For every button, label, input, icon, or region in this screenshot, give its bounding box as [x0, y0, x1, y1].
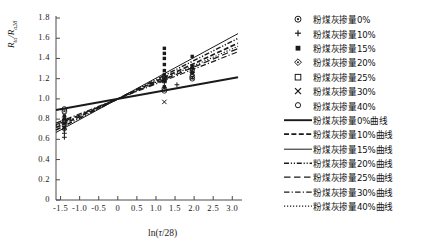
- dotted-line-icon: [283, 199, 313, 213]
- chart-figure: Rta/Ra28 ln(τ/28) 00.20.40.60.81.01.21.4…: [0, 0, 421, 248]
- x-axis-tick-label: 3.0: [218, 203, 246, 213]
- legend-item[interactable]: 粉煤灰掺量15%: [283, 41, 421, 55]
- legend-item[interactable]: 粉煤灰掺量20%曲线: [283, 156, 421, 170]
- data-point-filled-square: [163, 47, 166, 50]
- y-axis-tick-label: 0.4: [26, 154, 50, 164]
- fit-line: [56, 38, 238, 130]
- y-axis-tick-label: 1.0: [26, 93, 50, 103]
- y-axis-tick-label: 0.8: [26, 113, 50, 123]
- data-point-filled-square: [163, 85, 166, 88]
- dash-dot-line-icon: [283, 185, 313, 199]
- legend-item[interactable]: 粉煤灰掺量15%曲线: [283, 142, 421, 156]
- filled-square-marker-icon: [283, 41, 313, 55]
- legend-item-label: 粉煤灰掺量25%曲线: [313, 171, 393, 183]
- data-point-plus: [175, 82, 180, 87]
- fit-line: [56, 43, 238, 127]
- dash-dot-dot-line-icon: [283, 156, 313, 170]
- fit-line: [56, 77, 238, 110]
- legend-item[interactable]: 粉煤灰掺量25%: [283, 70, 421, 84]
- x-axis-title: ln(τ/28): [148, 228, 177, 238]
- data-point-filled-square: [163, 52, 166, 55]
- legend-item[interactable]: 粉煤灰掺量10%: [283, 26, 421, 40]
- legend-item[interactable]: 粉煤灰掺量20%: [283, 55, 421, 69]
- data-point-filled-square: [163, 69, 166, 72]
- plus-marker-icon: [283, 26, 313, 40]
- data-point-filled-square: [163, 63, 166, 66]
- legend-item[interactable]: 粉煤灰掺量25%曲线: [283, 170, 421, 184]
- legend-item-label: 粉煤灰掺量20%曲线: [313, 157, 393, 169]
- legend-item-label: 粉煤灰掺量30%: [313, 85, 376, 97]
- legend-item-label: 粉煤灰掺量0%曲线: [313, 114, 388, 126]
- small-circle-marker-icon: [283, 98, 313, 112]
- y-axis-tick-label: 1.6: [26, 32, 50, 42]
- data-point-filled-square: [191, 55, 194, 58]
- y-axis-tick-label: 1.4: [26, 52, 50, 62]
- x-axis-title-text: ln(τ/28): [148, 228, 177, 238]
- diamond-marker-icon: [283, 55, 313, 69]
- cross-marker-icon: [283, 84, 313, 98]
- legend-item-label: 粉煤灰掺量30%曲线: [313, 186, 393, 198]
- legend-item-label: 粉煤灰掺量40%曲线: [313, 200, 393, 212]
- legend-item[interactable]: 粉煤灰掺量40%: [283, 98, 421, 112]
- legend-item[interactable]: 粉煤灰掺量0%: [283, 12, 421, 26]
- data-point-filled-square: [163, 57, 166, 60]
- open-square-marker-icon: [283, 70, 313, 84]
- legend-item-label: 粉煤灰掺量25%: [313, 71, 376, 83]
- long-dash-line-icon: [283, 170, 313, 184]
- legend-item-label: 粉煤灰掺量0%: [313, 13, 370, 25]
- legend-item-label: 粉煤灰掺量20%: [313, 56, 376, 68]
- circle-dot-marker-icon: [283, 12, 313, 26]
- legend-item[interactable]: 粉煤灰掺量0%曲线: [283, 113, 421, 127]
- legend-item[interactable]: 粉煤灰掺量30%曲线: [283, 185, 421, 199]
- y-axis-tick-label: 1.8: [26, 12, 50, 22]
- dashed-line-icon: [283, 127, 313, 141]
- solid-thin-line-icon: [283, 142, 313, 156]
- chart-legend: 粉煤灰掺量0%粉煤灰掺量10%粉煤灰掺量15%粉煤灰掺量20%粉煤灰掺量25%粉…: [283, 12, 421, 213]
- legend-item-label: 粉煤灰掺量15%: [313, 42, 376, 54]
- legend-item[interactable]: 粉煤灰掺量10%曲线: [283, 127, 421, 141]
- legend-item-label: 粉煤灰掺量10%: [313, 28, 376, 40]
- legend-item-label: 粉煤灰掺量40%: [313, 100, 376, 112]
- y-axis-tick-label: 0.6: [26, 133, 50, 143]
- legend-item[interactable]: 粉煤灰掺量30%: [283, 84, 421, 98]
- y-axis-tick-label: 0.2: [26, 174, 50, 184]
- legend-item-label: 粉煤灰掺量10%曲线: [313, 128, 393, 140]
- y-axis-title: Rta/Ra28: [6, 32, 18, 48]
- legend-item[interactable]: 粉煤灰掺量40%曲线: [283, 199, 421, 213]
- data-series: [62, 73, 194, 131]
- fit-line: [56, 52, 238, 123]
- y-axis-title-text: Rta/Ra28: [6, 21, 16, 48]
- solid-thick-line-icon: [283, 113, 313, 127]
- data-point-cross: [162, 100, 166, 104]
- legend-item-label: 粉煤灰掺量15%曲线: [313, 143, 393, 155]
- y-axis-tick-label: 1.2: [26, 73, 50, 83]
